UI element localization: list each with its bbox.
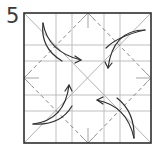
midpoint-mark-top	[81, 13, 95, 28]
arrow-tail	[33, 106, 72, 124]
fold-arrow-bottom-left	[33, 85, 72, 124]
fold-arrow-bottom-right	[97, 97, 134, 138]
arrow-shaft	[43, 23, 81, 60]
midpoint-mark-left	[24, 71, 39, 85]
midpoint-mark-right	[136, 71, 151, 85]
origami-diagram	[0, 0, 160, 155]
arrow-shaft	[97, 100, 134, 138]
fold-arrow-top-right	[105, 30, 145, 68]
fold-arrow-top-left	[43, 23, 81, 63]
midpoint-mark-bottom	[81, 128, 95, 143]
arrow-shaft	[33, 85, 69, 124]
